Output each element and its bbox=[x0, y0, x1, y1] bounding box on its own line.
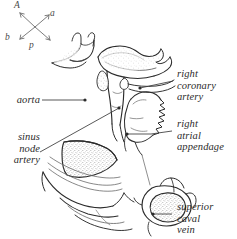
compass-label-anterior: a bbox=[50, 8, 55, 18]
leader-right-coronary-artery bbox=[138, 81, 173, 90]
label-sinus-node-artery: sinus node artery bbox=[0, 131, 40, 166]
leader-right-atrial-appendage bbox=[125, 131, 172, 136]
compass-label-superior: A bbox=[14, 0, 20, 10]
label-right-atrial-appendage-line1: right bbox=[177, 118, 237, 130]
label-superior-caval-vein-line2: caval bbox=[177, 213, 237, 225]
label-right-atrial-appendage: right atrial appendage bbox=[177, 118, 237, 153]
heart-base-drawing bbox=[42, 33, 196, 236]
label-sinus-node-artery-line1: sinus bbox=[0, 131, 40, 143]
label-aorta: aorta bbox=[2, 94, 40, 106]
label-right-atrial-appendage-line2: atrial bbox=[177, 130, 237, 142]
anatomical-figure: A a b p aorta sinus node artery right co… bbox=[0, 0, 237, 239]
compass-label-inferior: p bbox=[29, 40, 34, 50]
label-right-atrial-appendage-line3: appendage bbox=[177, 141, 237, 153]
label-right-coronary-artery: right coronary artery bbox=[177, 68, 237, 103]
label-right-coronary-artery-line1: right bbox=[177, 68, 237, 80]
label-superior-caval-vein-line1: superior bbox=[177, 201, 237, 213]
label-superior-caval-vein: superior caval vein bbox=[177, 201, 237, 236]
compass-label-posterior: b bbox=[5, 32, 10, 42]
label-superior-caval-vein-line3: vein bbox=[177, 224, 237, 236]
label-sinus-node-artery-line3: artery bbox=[0, 154, 40, 166]
label-sinus-node-artery-line2: node bbox=[0, 143, 40, 155]
label-right-coronary-artery-line3: artery bbox=[177, 91, 237, 103]
label-right-coronary-artery-line2: coronary bbox=[177, 80, 237, 92]
compass-icon bbox=[20, 13, 50, 40]
leader-aorta bbox=[42, 98, 87, 101]
